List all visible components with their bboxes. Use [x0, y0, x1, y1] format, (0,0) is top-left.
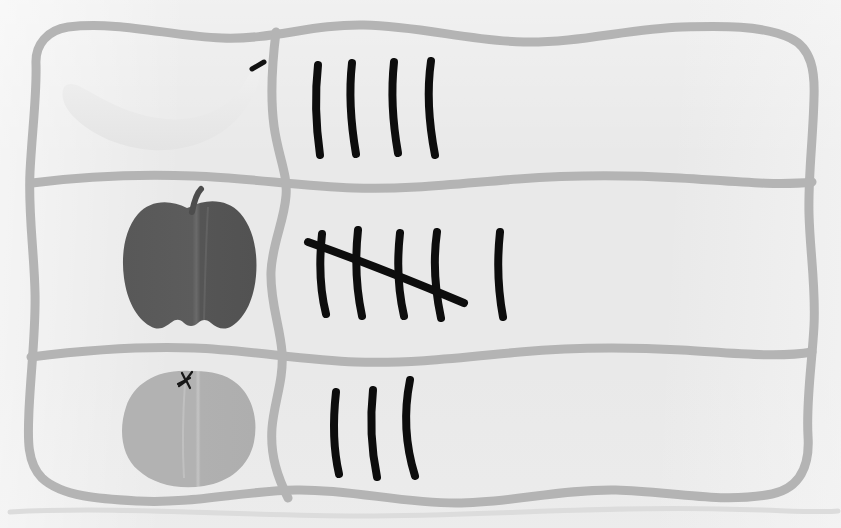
apple-body [123, 201, 257, 328]
tally-mark [406, 380, 415, 476]
tally-group [308, 230, 503, 318]
tally-mark [371, 390, 377, 477]
tally-mark [435, 232, 441, 318]
banana-icon [63, 62, 265, 150]
apple-icon [123, 189, 257, 329]
banana-body [63, 67, 261, 150]
table-row [63, 61, 436, 155]
orange-body [122, 371, 255, 488]
tally-mark [316, 65, 320, 155]
tally-group [316, 61, 435, 155]
tally-mark [334, 392, 339, 474]
row-divider-2 [31, 347, 812, 362]
tally-mark [498, 232, 503, 317]
tally-mark [350, 63, 356, 154]
banana-stem [252, 62, 264, 69]
table-row [123, 189, 503, 329]
tally-chart-figure [0, 0, 841, 528]
column-divider [271, 32, 288, 498]
tally-mark [392, 62, 398, 153]
tally-group [334, 380, 415, 477]
worksheet-canvas [0, 0, 841, 528]
tally-mark [429, 61, 435, 155]
page-guideline [10, 508, 838, 516]
tally-mark-cross [308, 242, 464, 303]
orange-icon [122, 371, 255, 488]
row-divider-1 [32, 175, 812, 188]
tally-mark [356, 230, 362, 316]
